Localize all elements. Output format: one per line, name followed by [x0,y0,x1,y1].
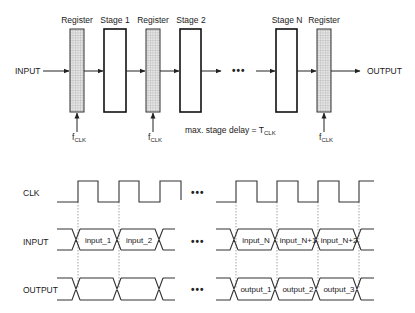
input-cell-n-plus-1: input_N+1 [280,236,317,245]
output-cell-1: output_1 [240,285,272,294]
stage-1 [104,29,126,112]
input-cell-1: input_1 [85,236,112,245]
input-signal-label: INPUT [23,237,49,247]
register-3-label: Register [308,15,340,25]
stage-1-label: Stage 1 [100,15,130,25]
fclk-label-3: fCLK [319,132,333,143]
stage-2 [180,29,201,112]
input-cell-n: input_N [242,236,270,245]
alignment-guides [78,202,359,289]
clk-signal-label: CLK [23,188,40,198]
pipeline-ellipsis: ••• [232,65,246,76]
register-3 [317,29,331,112]
fclk-label-2: fCLK [148,132,162,143]
stage-2-label: Stage 2 [176,15,206,25]
clk-ellipsis: ••• [191,187,205,198]
stage-n [276,29,297,112]
input-label: INPUT [15,66,41,76]
input-cell-n-plus-2: input_N+2 [321,236,358,245]
register-1-label: Register [61,15,93,25]
register-1 [70,29,84,112]
output-cell-3: output_3 [323,285,355,294]
max-stage-delay-note: max. stage delay = TCLK [185,125,276,136]
clk-waveform-left [57,181,181,202]
output-signal-label: OUTPUT [23,285,58,295]
output-label: OUTPUT [367,66,402,76]
register-2 [146,29,160,112]
clk-waveform-right [216,181,374,202]
input-cell-2: input_2 [126,236,153,245]
register-2-label: Register [137,15,169,25]
input-bus-left [57,229,175,250]
output-ellipsis: ••• [191,284,205,295]
fclk-label-1: fCLK [72,132,86,143]
stage-n-label: Stage N [272,15,303,25]
output-cell-2: output_2 [282,285,314,294]
output-bus-left [57,278,175,300]
pipeline-diagram: Register Stage 1 Register Stage 2 Stage … [0,0,415,313]
input-ellipsis: ••• [191,236,205,247]
